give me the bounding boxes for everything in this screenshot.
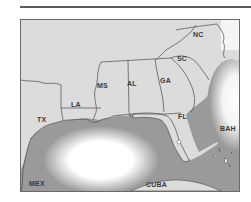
label-nc: NC — [193, 31, 204, 38]
title-rule — [20, 6, 251, 8]
southeast-us-map: NC SC GA AL MS LA TX FL BAH MEX CUBA — [20, 19, 240, 192]
gulf-highlight — [43, 126, 159, 191]
label-ms: MS — [97, 82, 108, 89]
label-mex: MEX — [29, 180, 45, 187]
label-tx: TX — [37, 116, 46, 123]
label-fl: FL — [178, 113, 187, 120]
map-graphic — [21, 20, 239, 191]
label-sc: SC — [177, 55, 187, 62]
lake-okeechobee — [177, 140, 181, 144]
label-bah: BAH — [220, 125, 236, 132]
label-al: AL — [127, 80, 137, 87]
label-cuba: CUBA — [146, 181, 167, 188]
label-ga: GA — [160, 77, 171, 84]
label-la: LA — [71, 101, 81, 108]
